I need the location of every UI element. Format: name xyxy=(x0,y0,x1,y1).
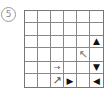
grid-cell[interactable] xyxy=(51,36,64,48)
arrow-right-icon: → xyxy=(54,63,61,72)
grid-cell[interactable] xyxy=(25,74,38,87)
grid-cell[interactable] xyxy=(77,23,90,35)
grid-cell[interactable] xyxy=(64,36,77,48)
triangle-right-icon: ▶ xyxy=(67,76,74,86)
grid-cell[interactable] xyxy=(51,11,64,23)
triangle-left-icon: ◀ xyxy=(93,76,100,86)
grid-cell[interactable] xyxy=(77,74,90,87)
grid-cell[interactable] xyxy=(38,48,51,62)
grid-cell[interactable] xyxy=(64,23,77,35)
grid-cell[interactable]: ▼ xyxy=(90,62,103,74)
grid-cell[interactable] xyxy=(90,11,103,23)
grid-cell[interactable]: ◀ xyxy=(90,74,103,87)
grid-cell[interactable]: ↗ xyxy=(51,74,64,87)
grid-cell[interactable] xyxy=(90,23,103,35)
grid-cell[interactable]: → xyxy=(51,62,64,74)
grid-cell[interactable] xyxy=(38,36,51,48)
triangle-up-icon: ▲ xyxy=(93,36,100,46)
grid-cell[interactable] xyxy=(77,11,90,23)
grid-cell[interactable]: ▲ xyxy=(90,36,103,48)
grid-cell[interactable] xyxy=(38,74,51,87)
grid-cell[interactable]: ▶ xyxy=(64,74,77,87)
puzzle-number-label: 5 xyxy=(1,7,16,22)
grid-cell[interactable] xyxy=(64,48,77,62)
grid-cell[interactable] xyxy=(77,36,90,48)
grid-cell[interactable] xyxy=(64,11,77,23)
grid-cell[interactable] xyxy=(25,62,38,74)
grid-cell[interactable] xyxy=(25,36,38,48)
grid-cell[interactable] xyxy=(51,23,64,35)
grid-cell[interactable] xyxy=(25,23,38,35)
grid-cell[interactable] xyxy=(90,48,103,62)
grid-cell[interactable] xyxy=(38,11,51,23)
grid-cell[interactable] xyxy=(77,62,90,74)
arrow-up-right-icon: ↗ xyxy=(52,74,61,87)
grid-cell[interactable] xyxy=(64,62,77,74)
grid-cell[interactable] xyxy=(25,48,38,62)
triangle-down-icon: ▼ xyxy=(93,62,100,72)
grid-cell[interactable] xyxy=(25,11,38,23)
grid-cell[interactable] xyxy=(38,62,51,74)
grid-cell[interactable]: ↖ xyxy=(77,48,90,62)
puzzle-grid: ▲↖→▼↗▶◀ xyxy=(24,10,104,88)
grid-cell[interactable] xyxy=(51,48,64,62)
grid-cell[interactable] xyxy=(38,23,51,35)
arrow-up-left-icon: ↖ xyxy=(78,48,87,61)
